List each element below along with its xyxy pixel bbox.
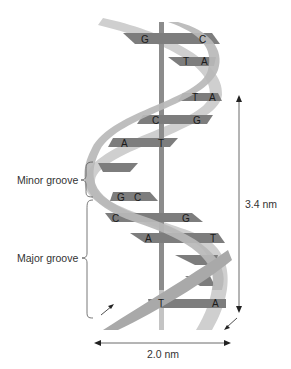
- base-letter: G: [193, 115, 201, 126]
- base-letter: G: [117, 192, 125, 203]
- base-letter: A: [121, 138, 128, 149]
- base-letter: A: [212, 298, 219, 309]
- dna-helix-diagram: G C T A T A C G A T G C C G A T T A Mino…: [0, 0, 291, 369]
- base-letter: T: [192, 92, 198, 103]
- base-letter: A: [209, 92, 216, 103]
- base-pair-6: [98, 163, 138, 172]
- base-letter: C: [134, 192, 141, 203]
- base-letter: T: [158, 138, 164, 149]
- base-letter: G: [141, 34, 149, 45]
- groove-arrow-right: [224, 318, 237, 330]
- diameter-label: 2.0 nm: [147, 348, 179, 360]
- diameter-arrow: [94, 340, 231, 346]
- base-letter: A: [201, 56, 208, 67]
- minor-groove-label: Minor groove: [17, 174, 78, 186]
- base-pair-2: [168, 57, 216, 66]
- pitch-label: 3.4 nm: [245, 198, 277, 210]
- base-letter: T: [158, 298, 164, 309]
- base-letter: C: [112, 213, 119, 224]
- base-pair-5: [108, 138, 178, 147]
- base-letter: C: [199, 34, 206, 45]
- base-pair-4: [137, 115, 213, 124]
- base-letter: T: [183, 56, 189, 67]
- helix-axis: [159, 22, 164, 330]
- base-letter: C: [152, 115, 159, 126]
- pitch-arrow: [236, 95, 242, 313]
- base-letter: T: [210, 233, 216, 244]
- major-groove-label: Major groove: [17, 252, 78, 264]
- base-letter: G: [182, 213, 190, 224]
- groove-arrow-left: [101, 304, 114, 315]
- base-letter: A: [145, 233, 152, 244]
- major-groove-brace: [82, 200, 93, 318]
